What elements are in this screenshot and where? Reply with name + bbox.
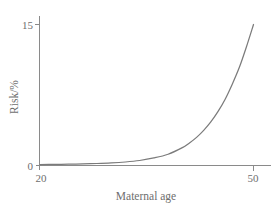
y-tick-label-top: 15 — [22, 19, 34, 31]
y-tick-label-bottom: 0 — [28, 160, 34, 172]
chart-figure: 15 0 20 50 Risk/% Maternal age — [0, 0, 277, 211]
y-axis-title: Risk/% — [8, 80, 20, 114]
x-axis-title: Maternal age — [116, 190, 176, 203]
chart-plot-area: 15 0 20 50 Risk/% Maternal age — [0, 0, 277, 211]
x-tick-label-right: 50 — [248, 172, 260, 184]
risk-curve — [40, 25, 254, 165]
x-tick-label-left: 20 — [36, 172, 48, 184]
